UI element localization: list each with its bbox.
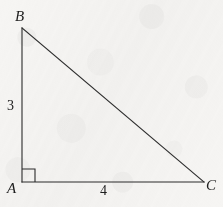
side-length-label-ac: 4 <box>100 184 107 198</box>
triangle-drawing <box>0 0 223 207</box>
geometry-figure: B A C 3 4 <box>0 0 223 207</box>
vertex-label-b: B <box>15 9 24 24</box>
vertex-label-a: A <box>7 181 16 196</box>
segment-bc <box>22 28 204 182</box>
right-angle-marker <box>22 169 35 182</box>
side-length-label-ab: 3 <box>7 99 14 113</box>
vertex-label-c: C <box>206 178 216 193</box>
